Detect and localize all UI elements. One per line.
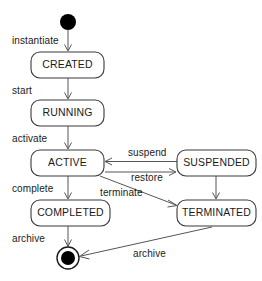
state-completed-label: COMPLETED [37, 206, 104, 218]
state-running[interactable]: RUNNING [31, 100, 104, 126]
state-running-label: RUNNING [42, 106, 92, 118]
state-terminated[interactable]: TERMINATED [177, 200, 256, 226]
transition-archive-completed[interactable] [65, 226, 72, 247]
transition-label-terminate: terminate [100, 187, 143, 198]
transition-suspended-to-terminated[interactable] [213, 176, 220, 199]
transition-label-instantiate: instantiate [12, 35, 59, 46]
state-diagram: CREATED RUNNING ACTIVE SUSPENDED COMPLET… [0, 0, 262, 281]
transition-label-archive-terminated: archive [133, 248, 166, 259]
transition-label-archive-completed: archive [12, 233, 45, 244]
final-state-node [57, 247, 79, 269]
state-suspended[interactable]: SUSPENDED [177, 150, 256, 176]
transition-label-start: start [12, 85, 32, 96]
state-created[interactable]: CREATED [31, 52, 104, 78]
state-active[interactable]: ACTIVE [31, 150, 104, 176]
state-diagram-canvas: CREATED RUNNING ACTIVE SUSPENDED COMPLET… [0, 0, 262, 281]
state-terminated-label: TERMINATED [182, 206, 251, 218]
state-created-label: CREATED [42, 58, 93, 70]
state-completed[interactable]: COMPLETED [31, 200, 110, 226]
transition-start[interactable] [65, 78, 72, 99]
transition-activate[interactable] [65, 126, 72, 149]
transition-label-complete: complete [12, 183, 54, 194]
transition-label-suspend: suspend [128, 147, 167, 158]
transition-label-restore: restore [131, 172, 163, 183]
state-active-label: ACTIVE [48, 156, 87, 168]
transition-instantiate[interactable] [65, 30, 72, 51]
initial-state-node [60, 14, 76, 30]
transition-label-activate: activate [12, 133, 48, 144]
transition-suspend[interactable] [105, 158, 177, 165]
transition-complete[interactable] [65, 176, 72, 199]
state-suspended-label: SUSPENDED [183, 156, 250, 168]
